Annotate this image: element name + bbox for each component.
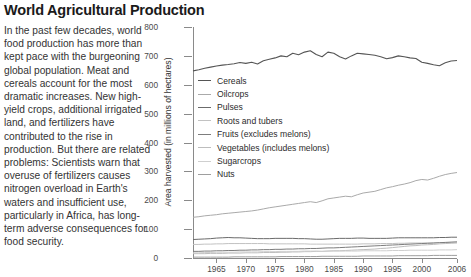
x-tick-mark [275, 259, 276, 263]
x-tick-mark [334, 259, 335, 263]
legend-item[interactable]: Nuts [198, 168, 329, 181]
y-tick-label: 400 [118, 138, 158, 148]
y-tick-mark [184, 258, 192, 259]
y-tick-mark [184, 229, 192, 230]
legend-item[interactable]: Fruits (excludes melons) [198, 128, 329, 141]
legend-item[interactable]: Vegetables (includes melons) [198, 141, 329, 154]
legend-label: Roots and tubers [217, 116, 282, 126]
legend-swatch-icon [198, 134, 211, 135]
x-axis-line [193, 258, 457, 259]
legend-swatch-icon [198, 147, 211, 148]
legend-swatch-icon [198, 80, 211, 81]
y-tick-mark [184, 114, 192, 115]
series-line [193, 237, 457, 239]
series-line [193, 255, 457, 257]
x-tick-mark [304, 259, 305, 263]
y-axis-title: Area harvested (in millions of hectares) [163, 14, 173, 250]
legend-item[interactable]: Cereals [198, 74, 329, 87]
y-tick-label: 100 [118, 224, 158, 234]
chart-legend: CerealsOilcropsPulsesRoots and tubersFru… [198, 74, 329, 181]
y-tick-mark [184, 143, 192, 144]
legend-swatch-icon [198, 107, 211, 108]
y-tick-mark [184, 56, 192, 57]
x-tick-label: 2006 [437, 264, 471, 274]
legend-label: Nuts [217, 169, 235, 179]
legend-item[interactable]: Oilcrops [198, 87, 329, 100]
y-tick-label: 0 [118, 253, 158, 263]
y-tick-label: 200 [118, 195, 158, 205]
legend-label: Oilcrops [217, 89, 249, 99]
y-tick-mark [184, 85, 192, 86]
legend-label: Fruits (excludes melons) [217, 129, 311, 139]
x-tick-label: 2000 [402, 264, 442, 274]
series-line [193, 51, 457, 71]
x-tick-mark [392, 259, 393, 263]
y-tick-mark [184, 171, 192, 172]
legend-label: Pulses [217, 102, 243, 112]
legend-item[interactable]: Pulses [198, 101, 329, 114]
x-tick-mark [216, 259, 217, 263]
page-title: World Agricultural Production [4, 2, 204, 18]
legend-label: Cereals [217, 76, 247, 86]
legend-label: Sugarcrops [217, 156, 261, 166]
y-tick-label: 500 [118, 109, 158, 119]
y-tick-mark [184, 200, 192, 201]
y-tick-label: 300 [118, 166, 158, 176]
legend-label: Vegetables (includes melons) [217, 143, 329, 153]
legend-swatch-icon [198, 174, 211, 175]
legend-swatch-icon [198, 94, 211, 95]
line-chart: Area harvested (in millions of hectares)… [160, 22, 460, 270]
x-tick-mark [422, 259, 423, 263]
y-tick-label: 700 [118, 51, 158, 61]
y-tick-label: 800 [118, 22, 158, 32]
legend-item[interactable]: Roots and tubers [198, 114, 329, 127]
y-tick-mark [184, 27, 192, 28]
x-tick-mark [246, 259, 247, 263]
x-tick-mark [457, 259, 458, 263]
y-tick-label: 600 [118, 80, 158, 90]
legend-swatch-icon [198, 120, 211, 121]
legend-item[interactable]: Sugarcrops [198, 154, 329, 167]
legend-swatch-icon [198, 161, 211, 162]
x-tick-mark [363, 259, 364, 263]
